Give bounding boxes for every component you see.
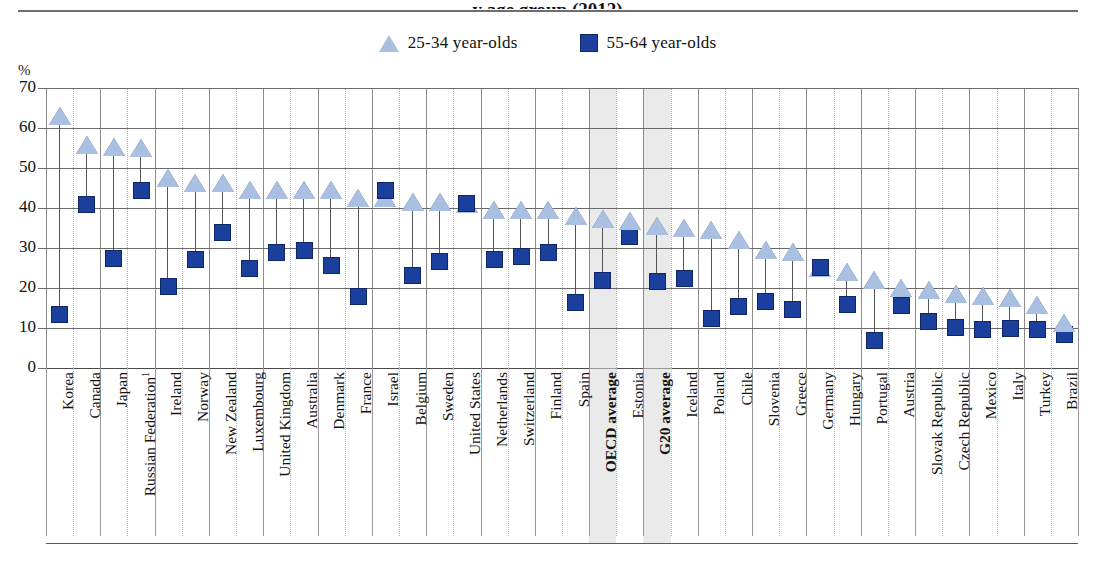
x-axis-label-cell: New Zealand: [209, 368, 236, 543]
category-separator: [426, 88, 427, 368]
x-axis-label: Brazil: [1064, 372, 1080, 410]
x-axis-label-cell: Denmark: [318, 368, 345, 543]
marker-young-brazil: [1053, 314, 1075, 332]
x-axis-label-cell: Ireland: [155, 368, 182, 543]
x-axis-label-cell: OECD average: [589, 368, 616, 543]
marker-young-slovak-republic: [918, 281, 940, 299]
category-separator: [1051, 88, 1052, 368]
marker-young-japan: [103, 138, 125, 156]
marker-old-belgium: [404, 267, 421, 284]
category-separator: [725, 88, 726, 368]
category-separator: [508, 88, 509, 368]
legend-item-old: 55-64 year-olds: [580, 33, 717, 53]
category-separator: [589, 88, 590, 368]
x-axis-label-cell: Iceland: [671, 368, 698, 543]
category-separator: [888, 88, 889, 368]
square-icon: [580, 34, 598, 52]
x-axis-label-cell: Italy: [997, 368, 1024, 543]
category-separator: [562, 88, 563, 368]
marker-young-sweden: [429, 193, 451, 211]
category-separator: [671, 88, 672, 368]
y-tick-mark: [38, 288, 46, 289]
category-separator: [453, 88, 454, 368]
x-axis-label-cell: Luxembourg: [236, 368, 263, 543]
y-tick-label: 0: [2, 357, 36, 377]
x-axis-labels: KoreaCanadaJapanRussian Federation1Irela…: [46, 368, 1078, 543]
marker-young-spain: [565, 207, 587, 225]
x-axis-label-cell: Mexico: [969, 368, 996, 543]
x-axis-label-cell: Slovak Republic: [915, 368, 942, 543]
category-separator: [616, 88, 617, 368]
connector-stem: [59, 116, 60, 314]
marker-old-sweden: [431, 253, 448, 270]
category-separator: [481, 88, 482, 368]
x-axis-label-cell: Japan: [100, 368, 127, 543]
x-axis-label-cell: Sweden: [426, 368, 453, 543]
x-axis-label-cell: Greece: [779, 368, 806, 543]
gridline: [46, 168, 1078, 169]
marker-old-turkey: [1029, 321, 1046, 338]
x-axis-label-cell: Estonia: [616, 368, 643, 543]
marker-old-ireland: [160, 278, 177, 295]
connector-stem: [358, 198, 359, 296]
marker-old-slovenia: [757, 293, 774, 310]
category-separator: [318, 88, 319, 368]
marker-old-japan: [105, 250, 122, 267]
y-tick-label: 70: [2, 77, 36, 97]
marker-young-united-kingdom: [266, 181, 288, 199]
x-axis-label-cell: Spain: [562, 368, 589, 543]
legend-label-old: 55-64 year-olds: [607, 33, 717, 53]
connector-stem: [575, 216, 576, 302]
marker-young-estonia: [619, 212, 641, 230]
marker-old-new-zealand: [214, 224, 231, 241]
y-tick-mark: [38, 88, 46, 89]
gridline: [46, 208, 1078, 209]
y-tick-label: 20: [2, 277, 36, 297]
y-tick-mark: [38, 168, 46, 169]
connector-stem: [167, 178, 168, 286]
marker-old-australia: [296, 242, 313, 259]
gridline: [46, 248, 1078, 249]
x-axis-label-cell: Switzerland: [508, 368, 535, 543]
marker-young-australia: [293, 181, 315, 199]
plot-area: 010203040506070: [46, 88, 1078, 368]
x-axis-label-cell: Slovenia: [752, 368, 779, 543]
gridline: [46, 88, 1078, 89]
connector-stem: [412, 202, 413, 276]
marker-old-spain: [567, 294, 584, 311]
x-axis-label-cell: Russian Federation1: [127, 368, 154, 543]
marker-old-mexico: [974, 321, 991, 338]
category-separator: [46, 88, 47, 368]
category-separator: [834, 88, 835, 368]
chart-root: y age group (2012) 25-34 year-olds 55-64…: [0, 0, 1095, 575]
category-separator: [806, 88, 807, 368]
x-axis-label-cell: Korea: [46, 368, 73, 543]
marker-young-netherlands: [483, 201, 505, 219]
marker-young-greece: [782, 243, 804, 261]
marker-old-netherlands: [486, 251, 503, 268]
x-axis-label-cell: Austria: [888, 368, 915, 543]
x-axis-label-cell: Finland: [535, 368, 562, 543]
connector-stem: [195, 183, 196, 260]
x-axis-bottom-rule: [46, 543, 1078, 544]
marker-young-new-zealand: [212, 174, 234, 192]
category-separator: [345, 88, 346, 368]
marker-old-finland: [540, 244, 557, 261]
y-tick-label: 30: [2, 237, 36, 257]
category-separator: [1024, 88, 1025, 368]
x-axis-label-cell: Netherlands: [481, 368, 508, 543]
marker-young-france: [347, 189, 369, 207]
marker-old-g20-average: [649, 273, 666, 290]
marker-young-denmark: [320, 181, 342, 199]
marker-young-portugal: [863, 271, 885, 289]
y-tick-label: 10: [2, 317, 36, 337]
connector-stem: [711, 230, 712, 319]
y-tick-mark: [38, 248, 46, 249]
category-separator: [100, 88, 101, 368]
marker-old-germany: [812, 259, 829, 276]
x-axis-label-cell: United Kingdom: [263, 368, 290, 543]
x-axis-label-cell: Belgium: [399, 368, 426, 543]
x-axis-label-cell: United States: [453, 368, 480, 543]
marker-old-portugal: [866, 332, 883, 349]
x-axis-label-cell: Australia: [290, 368, 317, 543]
